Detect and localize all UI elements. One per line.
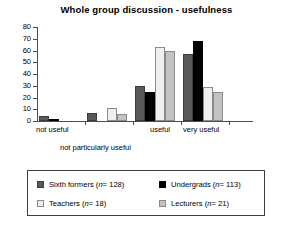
bar-very-useful-undergrads — [193, 41, 203, 121]
legend-label-sixth-formers: Sixth formers (n= 128) — [49, 180, 124, 189]
y-axis-label-60: 60 — [7, 47, 31, 55]
y-axis-label-10: 10 — [7, 105, 31, 113]
x-label-useful: useful — [150, 126, 170, 134]
bar-not-particularly-useful-sixth-formers — [87, 113, 97, 121]
legend-item-sixth-formers: Sixth formers (n= 128) — [37, 180, 124, 189]
legend-item-teachers: Teachers (n= 18) — [37, 199, 106, 208]
legend-item-undergrads: Undergrads (n= 113) — [159, 180, 241, 189]
bar-very-useful-sixth-formers — [183, 54, 193, 121]
legend-label-lecturers: Lecturers (n= 21) — [171, 199, 229, 208]
bar-useful-lecturers — [165, 51, 175, 122]
legend-label-undergrads: Undergrads (n= 113) — [171, 180, 241, 189]
bar-very-useful-lecturers — [213, 92, 223, 121]
legend: Sixth formers (n= 128) Undergrads (n= 11… — [27, 170, 265, 216]
bar-not-useful-undergrads — [49, 119, 59, 121]
x-tick-1 — [133, 121, 134, 125]
plot-area — [37, 27, 252, 121]
legend-swatch-teachers — [37, 200, 44, 207]
y-tick-0 — [33, 121, 37, 122]
legend-swatch-sixth-formers — [37, 181, 44, 188]
y-axis-label-80: 80 — [7, 23, 31, 31]
x-tick-0 — [85, 121, 86, 125]
legend-swatch-lecturers — [159, 200, 166, 207]
y-axis-label-0: 0 — [7, 117, 31, 125]
chart-container: Whole group discussion - usefulness 8070… — [0, 0, 293, 227]
y-axis-label-50: 50 — [7, 58, 31, 66]
bar-not-particularly-useful-teachers — [107, 108, 117, 121]
x-label-not-particularly-useful: not particularly useful — [60, 144, 131, 152]
bar-not-useful-sixth-formers — [39, 116, 49, 121]
y-axis-label-20: 20 — [7, 94, 31, 102]
y-axis-label-40: 40 — [7, 70, 31, 78]
chart-title: Whole group discussion - usefulness — [0, 4, 293, 15]
y-axis-label-70: 70 — [7, 35, 31, 43]
legend-label-teachers: Teachers (n= 18) — [49, 199, 106, 208]
x-label-very-useful: very useful — [183, 126, 219, 134]
bar-useful-undergrads — [145, 92, 155, 121]
x-tick-2 — [181, 121, 182, 125]
legend-swatch-undergrads — [159, 181, 166, 188]
x-label-not-useful: not useful — [36, 126, 69, 134]
bar-useful-sixth-formers — [135, 86, 145, 121]
bar-useful-teachers — [155, 47, 165, 121]
y-axis-label-30: 30 — [7, 82, 31, 90]
x-axis-line — [37, 121, 253, 122]
legend-item-lecturers: Lecturers (n= 21) — [159, 199, 229, 208]
x-tick-3 — [229, 121, 230, 125]
bar-very-useful-teachers — [203, 87, 213, 121]
bar-not-particularly-useful-lecturers — [117, 114, 127, 121]
